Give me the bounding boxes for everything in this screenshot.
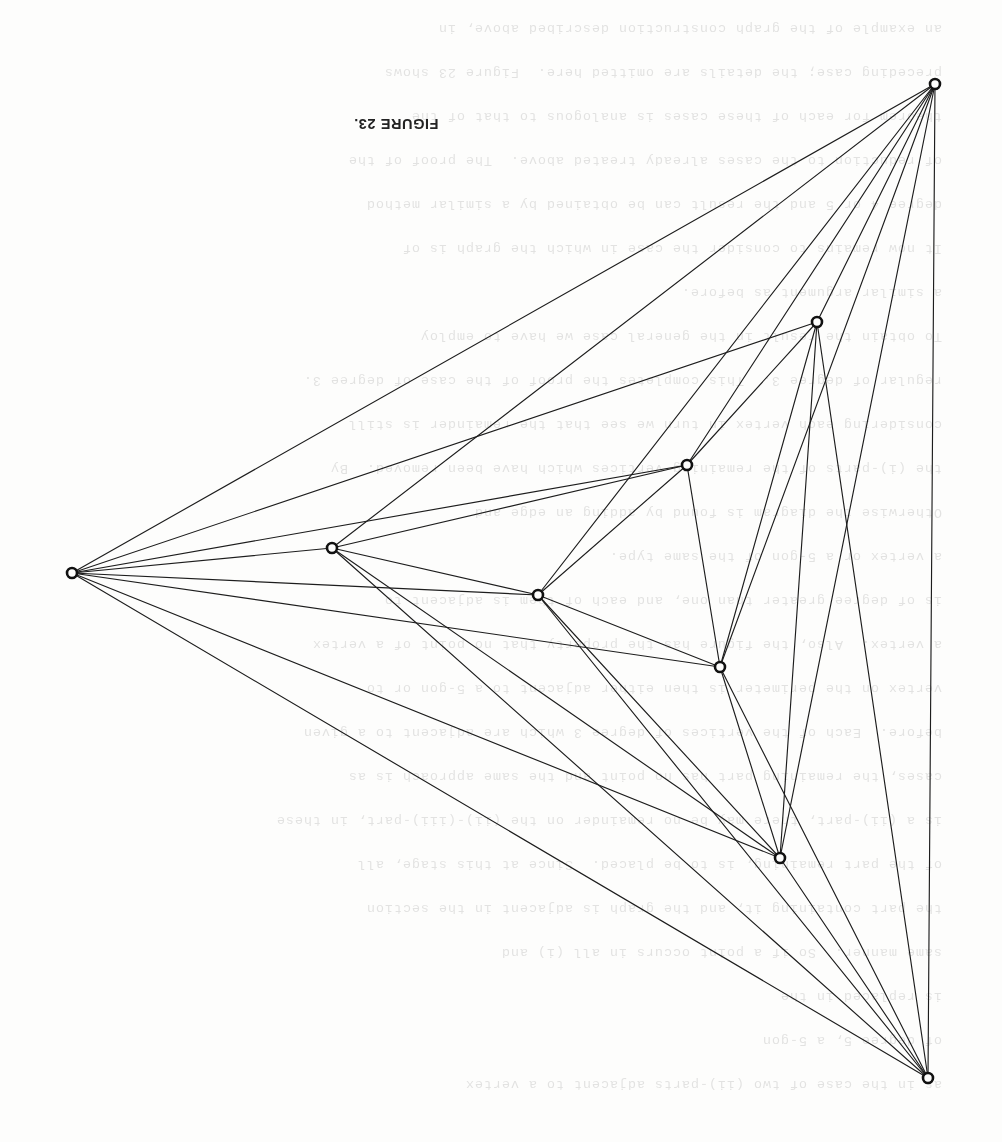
graph-edge	[928, 84, 935, 1078]
graph-edge	[332, 84, 935, 548]
graph-edge	[720, 322, 817, 667]
graph-edge	[538, 595, 780, 858]
graph-edge	[72, 465, 687, 573]
graph-edge-layer	[72, 84, 935, 1078]
graph-vertex	[327, 543, 337, 553]
graph-edge	[538, 465, 687, 595]
graph-vertex	[67, 568, 77, 578]
graph-edge	[72, 322, 817, 573]
graph-edge	[817, 322, 928, 1078]
graph-vertex-layer	[67, 79, 940, 1083]
graph-edge	[780, 858, 928, 1078]
graph-edge	[332, 548, 928, 1078]
graph-vertex	[533, 590, 543, 600]
scanned-page: as in the case of two (ii)-parts adjacen…	[0, 0, 1002, 1142]
graph-edge	[72, 573, 538, 595]
graph-edge	[72, 573, 720, 667]
graph-vertex	[682, 460, 692, 470]
graph-vertex	[715, 662, 725, 672]
graph-vertex	[923, 1073, 933, 1083]
graph-edge	[817, 84, 935, 322]
graph-edge	[538, 84, 935, 595]
graph-vertex	[812, 317, 822, 327]
graph-edge	[687, 465, 720, 667]
figure-caption: FIGURE 23.	[335, 116, 457, 132]
graph-edge	[720, 667, 780, 858]
graph-edge	[332, 548, 538, 595]
graph-edge	[332, 548, 780, 858]
graph-edge	[538, 595, 928, 1078]
graph-vertex	[775, 853, 785, 863]
graph-vertex	[930, 79, 940, 89]
graph-edge	[720, 84, 935, 667]
graph-drawing	[0, 0, 1002, 1142]
graph-edge	[538, 595, 720, 667]
graph-edge	[780, 322, 817, 858]
graph-edge	[780, 84, 935, 858]
graph-edge	[72, 548, 332, 573]
graph-edge	[72, 573, 780, 858]
graph-edge	[72, 84, 935, 573]
